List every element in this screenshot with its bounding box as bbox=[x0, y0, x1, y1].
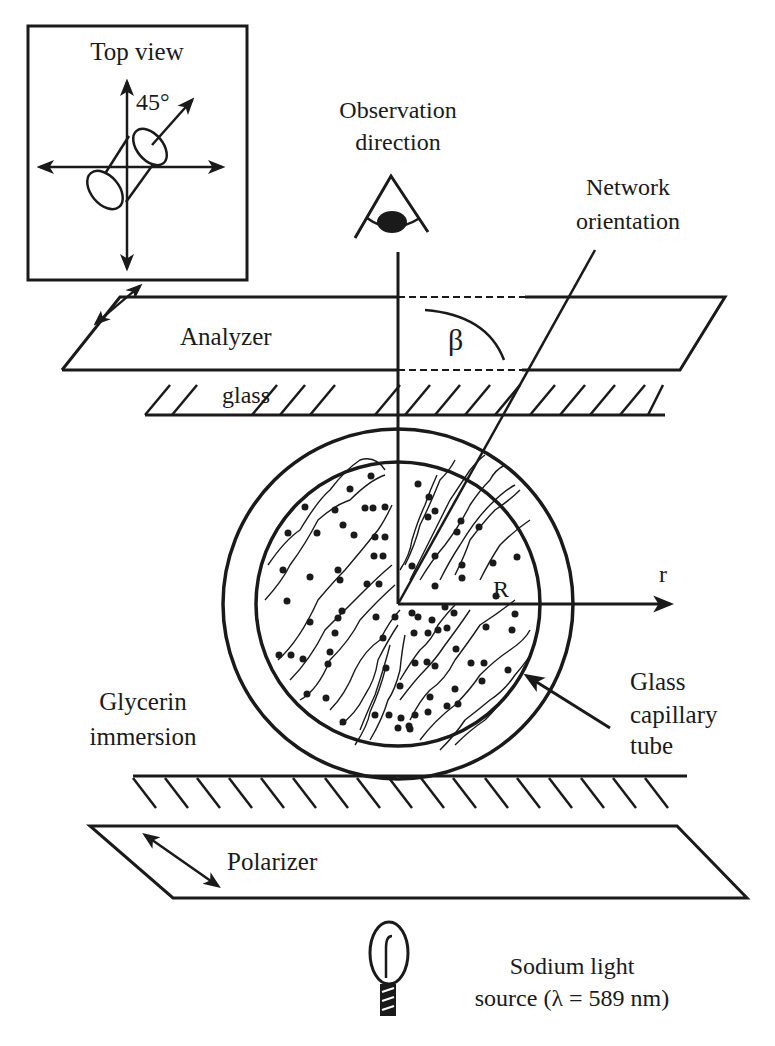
analyzer-polarization-arrow bbox=[96, 286, 140, 323]
polarizer-label: Polarizer bbox=[227, 848, 318, 875]
network-label-line1: Network bbox=[586, 174, 670, 200]
glass-label: glass bbox=[222, 382, 270, 408]
polarizer-polarization-arrow bbox=[145, 835, 218, 886]
capillary-pointer-arrow bbox=[527, 676, 610, 728]
capillary-label-line2: capillary bbox=[630, 701, 718, 728]
lamp-icon bbox=[370, 922, 408, 1016]
glass-slide-bottom bbox=[133, 776, 687, 808]
r-axis-label: r bbox=[659, 561, 667, 587]
network-label-line2: orientation bbox=[576, 208, 680, 234]
eye-icon bbox=[355, 176, 428, 238]
analyzer-plate: Analyzer β bbox=[62, 286, 725, 370]
radius-label: R bbox=[493, 576, 509, 602]
cylinder-icon bbox=[80, 100, 192, 216]
observation-label-line1: Observation bbox=[339, 97, 456, 123]
observation-label-line2: direction bbox=[355, 129, 440, 155]
light-source-label-line2: source (λ = 589 nm) bbox=[475, 985, 669, 1011]
glycerin-label-line2: immersion bbox=[90, 723, 197, 750]
top-view-title: Top view bbox=[90, 38, 183, 65]
capillary-label-line3: tube bbox=[630, 732, 673, 759]
beta-arc bbox=[425, 310, 504, 360]
setup-diagram: Top view 45° Observation direction Netwo… bbox=[0, 0, 775, 1046]
angle-45-label: 45° bbox=[136, 89, 170, 115]
glycerin-label-line1: Glycerin bbox=[99, 688, 187, 715]
top-view-inset: Top view 45° bbox=[28, 26, 247, 280]
light-source-label-line1: Sodium light bbox=[510, 953, 635, 979]
beta-label: β bbox=[448, 323, 463, 356]
polarizer-plate: Polarizer bbox=[90, 826, 747, 898]
analyzer-label: Analyzer bbox=[180, 323, 272, 350]
glass-slide-top: glass bbox=[145, 382, 665, 415]
capillary-label-line1: Glass bbox=[630, 668, 686, 695]
